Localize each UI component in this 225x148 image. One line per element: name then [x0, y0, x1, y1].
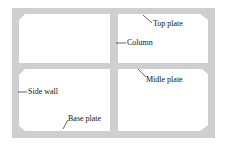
label-midle-plate: Midle plate — [146, 76, 183, 84]
label-side-wall: Side wall — [28, 88, 58, 96]
label-top-plate: Top plate — [153, 20, 183, 28]
leader-midle-plate — [138, 69, 146, 77]
label-column: Column — [127, 39, 153, 47]
leader-top-plate — [143, 15, 152, 23]
leader-lines — [0, 0, 225, 148]
label-base-plate: Base plate — [68, 115, 101, 123]
